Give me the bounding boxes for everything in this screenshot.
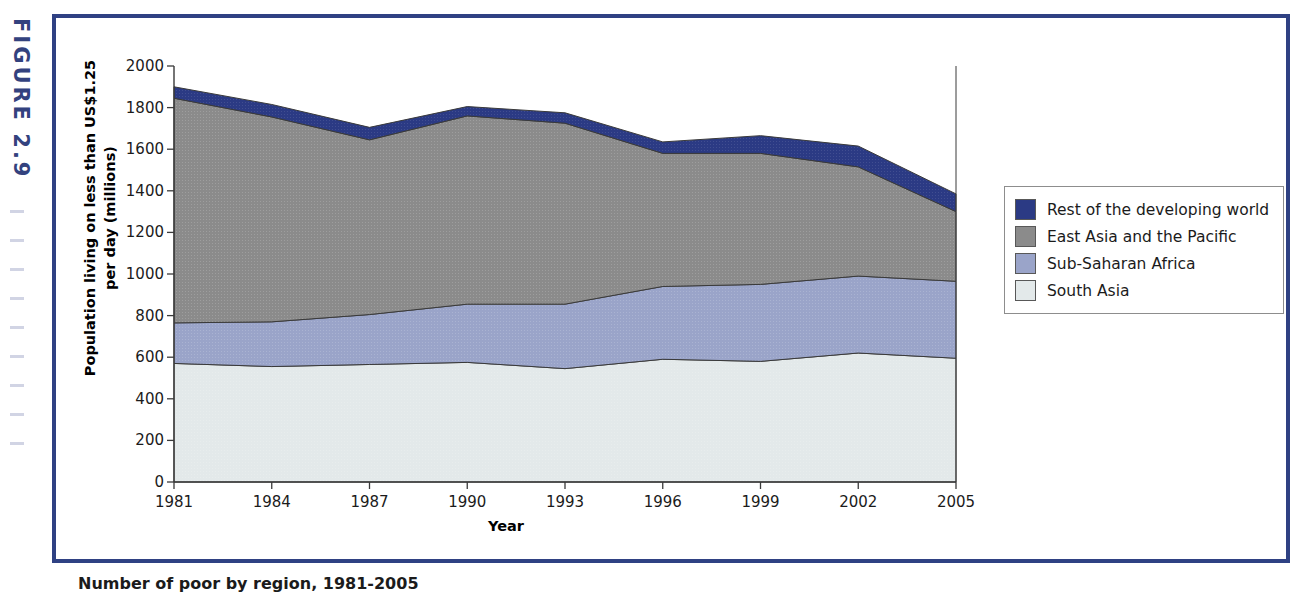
legend-item: Rest of the developing world — [1015, 196, 1269, 223]
chart-legend: Rest of the developing worldEast Asia an… — [1004, 186, 1284, 314]
legend-item-label: East Asia and the Pacific — [1047, 228, 1237, 246]
legend-item-label: Sub-Saharan Africa — [1047, 255, 1196, 273]
legend-swatch-icon — [1015, 226, 1036, 247]
figure-decoration-marks — [10, 210, 24, 540]
figure-panel: Population living on less than US$1.25 p… — [52, 14, 1290, 563]
x-axis-title: Year — [56, 518, 956, 534]
legend-swatch-icon — [1015, 253, 1036, 274]
figure-number-label: FIGURE 2.9 — [9, 18, 33, 179]
legend-swatch-icon — [1015, 280, 1036, 301]
area-series-south-asia — [174, 353, 956, 482]
legend-item-label: Rest of the developing world — [1047, 201, 1269, 219]
legend-item: East Asia and the Pacific — [1015, 223, 1269, 250]
legend-item-label: South Asia — [1047, 282, 1129, 300]
legend-item: Sub-Saharan Africa — [1015, 250, 1269, 277]
figure-caption: Number of poor by region, 1981-2005 — [78, 574, 419, 593]
figure-number-tag: FIGURE 2.9 — [0, 8, 42, 188]
legend-item: South Asia — [1015, 277, 1269, 304]
legend-swatch-icon — [1015, 199, 1036, 220]
